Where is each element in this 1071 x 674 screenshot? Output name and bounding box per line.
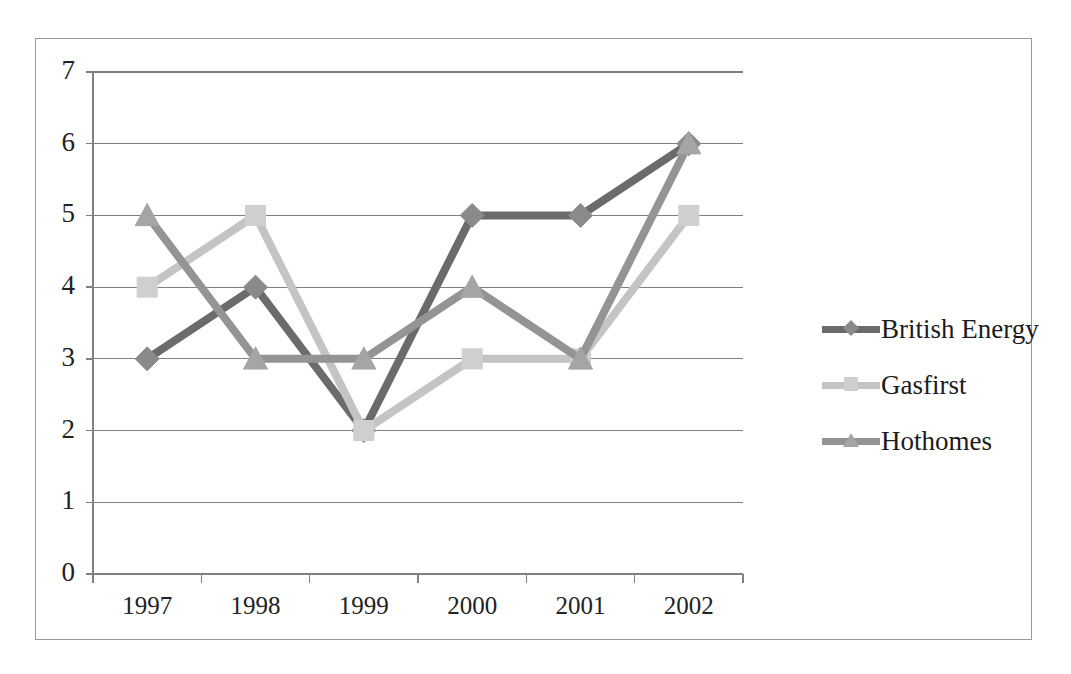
legend-swatch-triangle-icon [822,430,880,452]
chart-legend: British EnergyGasfirstHothomes [822,301,1062,469]
data-point-marker [460,275,484,297]
legend-entry[interactable]: Hothomes [822,413,1062,469]
legend-swatch-diamond-icon [822,318,880,340]
legend-entry[interactable]: Gasfirst [822,357,1062,413]
y-tick-label: 0 [41,557,75,588]
x-tick-label: 2000 [412,592,532,620]
data-point-marker [462,349,482,369]
y-tick-label: 1 [41,485,75,516]
chart-figure: 01234567 199719981999200020012002 Britis… [0,0,1071,674]
data-point-marker [679,205,699,225]
y-tick-label: 2 [41,414,75,445]
y-tick-label: 6 [41,127,75,158]
y-tick-label: 3 [41,342,75,373]
series-hothomes [135,132,701,369]
chart-plot-frame: 01234567 199719981999200020012002 Britis… [35,38,1032,640]
x-tick-label: 2001 [521,592,641,620]
x-tick-label: 1997 [87,592,207,620]
x-tick-label: 1999 [304,592,424,620]
legend-swatch-square-icon [822,374,880,396]
legend-label: British Energy [881,316,1039,343]
data-point-marker [246,205,266,225]
y-tick-label: 5 [41,198,75,229]
data-point-marker [137,277,157,297]
data-point-marker [354,421,374,441]
legend-label: Hothomes [881,428,992,455]
data-point-marker [135,203,159,225]
y-tick-label: 4 [41,270,75,301]
legend-label: Gasfirst [881,372,966,399]
x-tick-label: 1998 [196,592,316,620]
y-tick-label: 7 [41,55,75,86]
legend-entry[interactable]: British Energy [822,301,1062,357]
x-tick-label: 2002 [629,592,749,620]
